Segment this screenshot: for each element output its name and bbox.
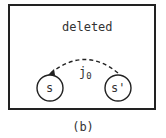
transition-label: j0 bbox=[79, 65, 92, 81]
arrowhead-icon bbox=[48, 69, 55, 75]
state-s-prime-label: s' bbox=[111, 81, 125, 95]
state-s-label: s bbox=[46, 81, 53, 95]
figure-caption: (b) bbox=[0, 120, 166, 134]
